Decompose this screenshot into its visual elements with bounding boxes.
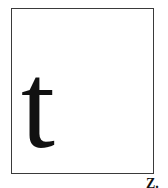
glyph-box: t <box>11 8 154 174</box>
corner-label: Z. <box>146 177 159 188</box>
glyph-character: t <box>21 45 55 167</box>
